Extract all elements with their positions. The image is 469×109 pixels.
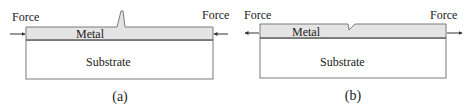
diagram-canvas: Force Force Metal Substrate (a) Force Fo… (0, 0, 469, 109)
right-force-label: Force (430, 8, 457, 22)
left-force-label: Force (244, 8, 271, 22)
metal-layer (26, 11, 213, 40)
metal-label: Metal (292, 25, 321, 39)
right-force-label: Force (202, 8, 229, 22)
metal-layer (260, 24, 446, 38)
caption-a: (a) (112, 89, 128, 105)
substrate-label: Substrate (320, 55, 365, 69)
caption-b: (b) (345, 88, 362, 104)
left-force-label: Force (12, 10, 39, 24)
panel-a: Force Force Metal Substrate (a) (10, 8, 229, 105)
panel-b: Force Force Metal Substrate (b) (244, 8, 462, 104)
substrate-label: Substrate (86, 55, 131, 69)
metal-label: Metal (76, 27, 105, 41)
